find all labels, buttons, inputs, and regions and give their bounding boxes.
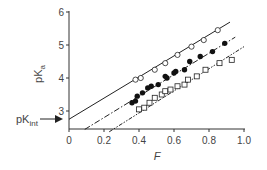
- pka-vs-f-chart: 345600.20.40.60.81.0 pKa F pKint: [0, 0, 267, 170]
- filled-circle-marker: [156, 82, 161, 87]
- filled-circle-marker: [135, 93, 140, 98]
- fit-lines: [69, 22, 244, 132]
- x-tick-label: 0.4: [132, 135, 146, 146]
- x-tick-label: 1.0: [237, 135, 251, 146]
- open-circle-marker: [163, 61, 168, 66]
- y-tick-label: 6: [58, 7, 64, 18]
- filled-circle-marker: [149, 84, 154, 89]
- open-circle-marker: [175, 52, 180, 57]
- open-square-marker: [142, 105, 147, 110]
- y-tick-label: 3: [58, 106, 64, 117]
- pkint-label: pKint: [16, 113, 39, 128]
- fit-line: [109, 47, 244, 132]
- y-tick-label: 4: [58, 73, 64, 84]
- filled-circle-marker: [182, 67, 187, 72]
- data-points: [129, 28, 234, 112]
- filled-circle-marker: [222, 41, 227, 46]
- open-square-marker: [182, 82, 187, 87]
- open-circle-marker: [133, 77, 138, 82]
- open-circle-marker: [201, 37, 206, 42]
- y-axis-label: pKa: [32, 64, 47, 82]
- x-tick-label: 0.6: [167, 135, 181, 146]
- open-square-marker: [168, 87, 173, 92]
- open-square-marker: [229, 57, 234, 62]
- open-square-marker: [194, 74, 199, 79]
- x-tick-label: 0.2: [97, 135, 111, 146]
- y-tick-label: 5: [58, 40, 64, 51]
- open-square-marker: [203, 67, 208, 72]
- filled-circle-marker: [164, 75, 169, 80]
- filled-circle-marker: [140, 90, 145, 95]
- open-square-marker: [147, 100, 152, 105]
- filled-circle-marker: [173, 69, 178, 74]
- x-tick-label: 0: [66, 135, 72, 146]
- open-circle-marker: [138, 75, 143, 80]
- filled-circle-marker: [133, 98, 138, 103]
- filled-circle-marker: [198, 54, 203, 59]
- open-square-marker: [137, 107, 142, 112]
- open-circle-marker: [189, 44, 194, 49]
- open-square-marker: [217, 61, 222, 66]
- tick-labels: 345600.20.40.60.81.0: [58, 7, 251, 146]
- open-square-marker: [175, 84, 180, 89]
- x-tick-label: 0.8: [202, 135, 216, 146]
- open-circle-marker: [152, 67, 157, 72]
- filled-circle-marker: [187, 59, 192, 64]
- x-axis-label: F: [154, 150, 162, 162]
- filled-circle-marker: [210, 49, 215, 54]
- open-square-marker: [186, 77, 191, 82]
- open-square-marker: [163, 89, 168, 94]
- open-circle-marker: [215, 28, 220, 33]
- open-square-marker: [152, 95, 157, 100]
